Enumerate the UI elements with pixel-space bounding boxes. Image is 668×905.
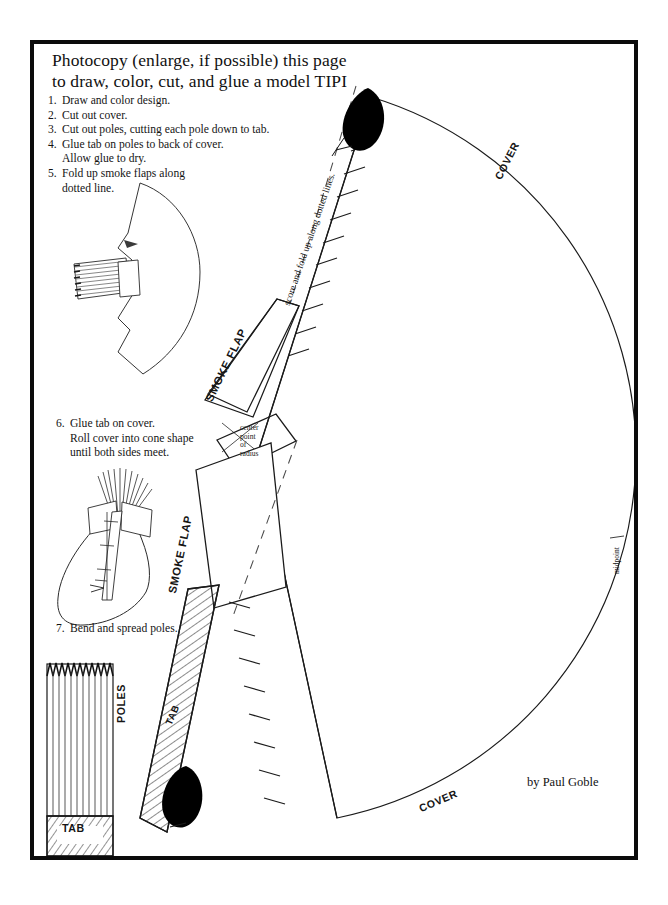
label-midpoint: midpoint (612, 547, 621, 574)
step-number: 3. (48, 123, 62, 138)
smoke-hole-upper-tail (332, 138, 344, 156)
step-continuation: Allow glue to dry. (48, 152, 298, 167)
page-canvas: Photocopy (enlarge, if possible) this pa… (0, 0, 668, 905)
list-item: 4. Glue tab on poles to back of cover. (48, 138, 298, 153)
step-continuation: Roll cover into cone shape (56, 432, 256, 447)
illustration-cone-rolled (74, 183, 200, 374)
label-center-point-of-radius: center point of radius (240, 424, 259, 458)
step-number: 6. (56, 417, 70, 432)
poles-rect (47, 664, 113, 816)
list-item: 2. Cut out cover. (48, 109, 298, 124)
title-line-1: Photocopy (enlarge, if possible) this pa… (52, 50, 382, 71)
step-number: 7. (56, 622, 70, 635)
step-number: 2. (48, 109, 62, 124)
step-number: 1. (48, 94, 62, 109)
step-number: 4. (48, 138, 62, 153)
step-text: Glue tab on cover. (70, 417, 256, 432)
step-text: Fold up smoke flaps along (62, 167, 298, 182)
list-item: 5. Fold up smoke flaps along (48, 167, 298, 182)
author-credit: by Paul Goble (527, 775, 599, 790)
list-item: 6. Glue tab on cover. (56, 417, 256, 432)
step-number: 5. (48, 167, 62, 182)
center-line-4: radius (240, 450, 259, 459)
label-tab-box: TAB (62, 822, 85, 834)
step-text: Cut out poles, cutting each pole down to… (62, 123, 298, 138)
page-title: Photocopy (enlarge, if possible) this pa… (52, 50, 382, 92)
smoke-flap-lower (196, 443, 286, 608)
step-text: Cut out cover. (62, 109, 298, 124)
label-poles: POLES (115, 684, 127, 723)
instruction-list-step7: 7. Bend and spread poles. (56, 622, 256, 635)
step-text: Glue tab on poles to back of cover. (62, 138, 298, 153)
list-item: 1. Draw and color design. (48, 94, 298, 109)
list-item: 3. Cut out poles, cutting each pole down… (48, 123, 298, 138)
illustration-standing-tipi (58, 468, 152, 625)
list-item: 7. Bend and spread poles. (56, 622, 256, 635)
step-text: Bend and spread poles. (70, 622, 256, 635)
instruction-list-upper: 1. Draw and color design. 2. Cut out cov… (48, 94, 298, 196)
step-continuation-2: until both sides meet. (56, 446, 256, 461)
step-text: Draw and color design. (62, 94, 298, 109)
instruction-list-step6: 6. Glue tab on cover. Roll cover into co… (56, 417, 256, 461)
title-line-2: to draw, color, cut, and glue a model TI… (52, 71, 382, 92)
step-continuation: dotted line. (48, 182, 298, 197)
